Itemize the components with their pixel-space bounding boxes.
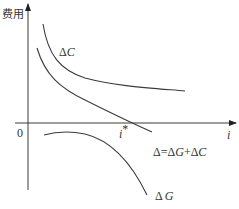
delta-total-label: Δ=ΔG+ΔC <box>153 145 207 159</box>
cost-diagram: 费用 0 i i* ΔC Δ=ΔG+ΔC ΔG <box>0 0 239 209</box>
delta-g-curve <box>44 132 147 195</box>
optimum-label: i* <box>119 122 128 141</box>
y-axis-label: 费用 <box>2 8 24 21</box>
origin-label: 0 <box>17 126 23 140</box>
delta-total-curve <box>37 48 152 132</box>
delta-c-label: ΔC <box>59 45 76 59</box>
delta-g-label: ΔG <box>155 189 174 203</box>
x-axis-label: i <box>227 128 230 142</box>
